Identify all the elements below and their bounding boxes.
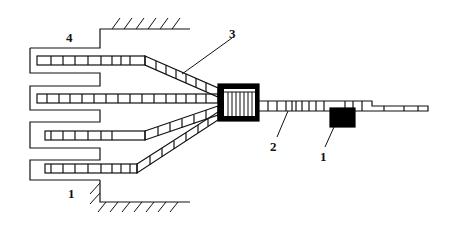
chain-branch-1 bbox=[37, 56, 218, 97]
bottom-wall bbox=[90, 180, 190, 212]
black-block bbox=[330, 108, 355, 127]
bottom-wall-hatching bbox=[90, 183, 178, 212]
label-1-left: 1 bbox=[68, 187, 75, 200]
leader-3 bbox=[182, 38, 232, 74]
comb-enclosure bbox=[30, 48, 100, 180]
chain-branch-2 bbox=[37, 94, 218, 103]
label-3: 3 bbox=[229, 27, 236, 40]
leader-1-right bbox=[325, 127, 334, 147]
chain-branch-4 bbox=[45, 112, 218, 173]
label-1-right: 1 bbox=[320, 150, 327, 163]
central-block bbox=[218, 84, 259, 121]
top-wall-hatching bbox=[112, 18, 180, 29]
label-2: 2 bbox=[270, 140, 277, 153]
chain-branch-3 bbox=[45, 106, 218, 140]
top-wall bbox=[30, 18, 190, 48]
leader-2 bbox=[277, 111, 288, 137]
label-4: 4 bbox=[66, 31, 73, 44]
